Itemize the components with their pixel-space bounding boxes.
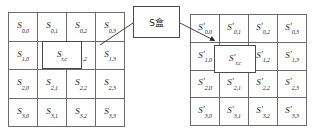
output-cell-symbol: S′3,0	[198, 106, 212, 117]
output-cell-1-3: S′1,3	[278, 43, 307, 71]
input-cell-1-3: S1,3	[96, 42, 125, 71]
input-cell-0-1: S0,1	[38, 13, 67, 42]
output-cell-2-0: S′2,0	[191, 71, 220, 99]
input-cell-1-0: S1,0	[9, 42, 38, 71]
output-cell-symbol: S′1,0	[198, 51, 212, 62]
input-cell-symbol: S3,2	[75, 107, 87, 118]
output-cell-symbol: S′1,3	[285, 51, 299, 62]
output-cell-symbol: S′0,0	[198, 23, 212, 34]
input-cell-symbol: S3,3	[104, 107, 116, 118]
highlighted-cell-input-symbol: Sr,c	[57, 49, 67, 61]
output-cell-symbol: S′0,2	[256, 23, 270, 34]
input-cell-symbol: S0,2	[75, 21, 87, 32]
input-cell-3-0: S3,0	[9, 99, 38, 128]
input-cell-symbol: S3,0	[17, 107, 29, 118]
output-cell-symbol: S′0,3	[285, 23, 299, 34]
output-cell-0-0: S′0,0	[191, 15, 220, 43]
input-cell-2-0: S2,0	[9, 70, 38, 99]
input-cell-symbol: S1,0	[17, 50, 29, 61]
output-cell-2-1: S′2,1	[220, 71, 249, 99]
s-box-label: S盒	[149, 16, 164, 29]
output-cell-0-3: S′0,3	[278, 15, 307, 43]
output-cell-3-0: S′3,0	[191, 98, 220, 126]
output-cell-3-1: S′3,1	[220, 98, 249, 126]
output-cell-symbol: S′2,3	[285, 78, 299, 89]
input-cell-symbol: S0,1	[46, 21, 58, 32]
highlighted-cell-output: S′r,c	[214, 45, 256, 73]
input-cell-0-3: S0,3	[96, 13, 125, 42]
input-cell-2-3: S2,3	[96, 70, 125, 99]
output-cell-symbol: S′2,0	[198, 78, 212, 89]
state-matrix-input: S0,0S0,1S0,2S0,3S1,0S1,1S1,2S1,3S2,0S2,1…	[8, 12, 125, 127]
output-cell-symbol: S′2,2	[256, 78, 270, 89]
input-cell-2-2: S2,2	[67, 70, 96, 99]
highlighted-cell-input: Sr,c	[42, 41, 82, 69]
input-cell-0-0: S0,0	[9, 13, 38, 42]
output-cell-symbol: S′3,2	[256, 106, 270, 117]
input-cell-symbol: S1,3	[104, 50, 116, 61]
input-cell-3-1: S3,1	[38, 99, 67, 128]
diagram-canvas: S0,0S0,1S0,2S0,3S1,0S1,1S1,2S1,3S2,0S2,1…	[0, 0, 316, 135]
input-cell-3-3: S3,3	[96, 99, 125, 128]
output-cell-symbol: S′3,1	[227, 106, 241, 117]
input-cell-2-1: S2,1	[38, 70, 67, 99]
output-cell-symbol: S′2,1	[227, 78, 241, 89]
highlighted-cell-output-symbol: S′r,c	[229, 53, 241, 65]
input-cell-3-2: S3,2	[67, 99, 96, 128]
output-cell-3-2: S′3,2	[249, 98, 278, 126]
input-cell-symbol: S0,3	[104, 21, 116, 32]
input-cell-symbol: S2,0	[17, 78, 29, 89]
input-cell-0-2: S0,2	[67, 13, 96, 42]
output-cell-symbol: S′1,2	[256, 51, 270, 62]
s-box[interactable]: S盒	[133, 6, 180, 38]
output-cell-0-2: S′0,2	[249, 15, 278, 43]
output-cell-symbol: S′0,1	[227, 23, 241, 34]
input-cell-symbol: S3,1	[46, 107, 58, 118]
input-cell-symbol: S2,1	[46, 78, 58, 89]
output-cell-2-2: S′2,2	[249, 71, 278, 99]
input-cell-symbol: S2,3	[104, 78, 116, 89]
input-cell-symbol: S2,2	[75, 78, 87, 89]
output-cell-2-3: S′2,3	[278, 71, 307, 99]
output-cell-0-1: S′0,1	[220, 15, 249, 43]
output-cell-3-3: S′3,3	[278, 98, 307, 126]
input-cell-symbol: S0,0	[17, 21, 29, 32]
output-cell-symbol: S′3,3	[285, 106, 299, 117]
